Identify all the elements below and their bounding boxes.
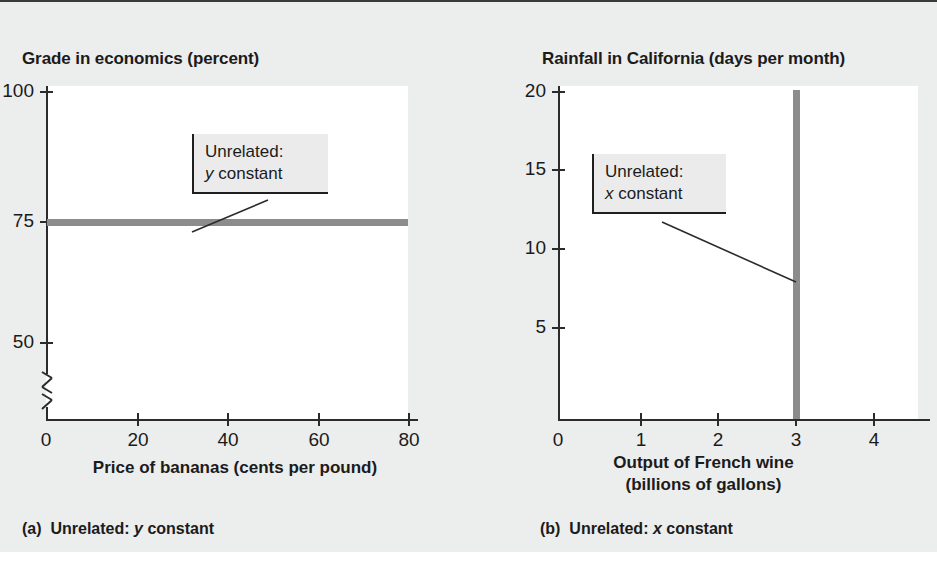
panel-b-x-tick-label-1: 1 xyxy=(617,429,665,451)
panel-a-caption-variable: y xyxy=(134,520,143,537)
panel-a-x-tick-label-80: 80 xyxy=(385,429,433,451)
panel-b-x-tick-label-0: 0 xyxy=(534,429,582,451)
panel-a-caption-prefix: (a) xyxy=(22,520,42,537)
panel-a-y-tick-label-100: 100 xyxy=(0,80,34,102)
panel-b-x-axis-title-line-2: (billions of gallons) xyxy=(470,474,937,496)
panel-b-y-tick-label-10: 10 xyxy=(500,237,546,259)
panel-b-x-tick-label-2: 2 xyxy=(694,429,742,451)
panel-a-x-tick-60 xyxy=(318,413,320,426)
panel-b-caption-variable: x xyxy=(653,520,662,537)
panel-b-y-tick-10 xyxy=(552,248,565,250)
panel-a-x-tick-20 xyxy=(137,413,139,426)
panel-a-x-axis xyxy=(46,419,418,421)
panel-a-y-axis-title: Grade in economics (percent) xyxy=(22,49,259,69)
panel-a-caption: (a) Unrelated: y constant xyxy=(22,520,214,538)
panel-b-caption: (b) Unrelated: x constant xyxy=(540,520,733,538)
panel-b-y-tick-20 xyxy=(552,91,565,93)
panel-b-y-tick-15 xyxy=(552,169,565,171)
panel-a-callout-leader xyxy=(190,198,270,234)
panel-b-y-tick-label-20: 20 xyxy=(500,80,546,102)
panel-b-x-tick-1 xyxy=(640,413,642,426)
panel-b-caption-prefix: (b) xyxy=(540,520,560,537)
panel-b-caption-text-2: constant xyxy=(666,520,733,537)
panel-b-x-tick-label-3: 3 xyxy=(772,429,820,451)
page-bottom-strip xyxy=(0,552,937,579)
panel-b-callout-word: constant xyxy=(618,184,682,203)
figure-container: Grade in economics (percent) 100 75 50 0… xyxy=(0,0,937,552)
panel-b-callout-variable: x xyxy=(605,184,614,203)
panel-a-x-tick-label-0: 0 xyxy=(22,429,70,451)
panel-a-callout-word: constant xyxy=(218,164,282,183)
panel-a-y-axis xyxy=(46,86,48,374)
panel-b-caption-text-1: Unrelated: xyxy=(569,520,648,537)
panel-b-y-axis xyxy=(558,86,560,420)
panel-a-x-tick-label-40: 40 xyxy=(204,429,252,451)
panel-a-callout: Unrelated: y constant xyxy=(192,134,328,194)
panel-b: Rainfall in California (days per month) … xyxy=(470,2,937,554)
panel-a-callout-line-2: y constant xyxy=(205,163,316,185)
panel-a-x-tick-label-60: 60 xyxy=(295,429,343,451)
panel-a-x-tick-80 xyxy=(408,413,410,426)
panel-b-callout-line-2: x constant xyxy=(605,183,714,205)
panel-a-y-tick-50 xyxy=(40,342,53,344)
panel-b-y-axis-title: Rainfall in California (days per month) xyxy=(542,49,845,69)
panel-b-callout: Unrelated: x constant xyxy=(592,154,726,214)
panel-b-x-tick-2 xyxy=(717,413,719,426)
panel-a-y-tick-label-50: 50 xyxy=(0,331,34,353)
panel-a-y-tick-label-75: 75 xyxy=(0,210,34,232)
panel-a-callout-line-1: Unrelated: xyxy=(205,141,316,163)
panel-a-x-tick-40 xyxy=(227,413,229,426)
panel-a-x-axis-title: Price of bananas (cents per pound) xyxy=(0,457,470,479)
panel-a-caption-text-1: Unrelated: xyxy=(50,520,129,537)
panel-a-y-tick-100 xyxy=(40,91,53,93)
panel-b-y-tick-label-5: 5 xyxy=(500,316,546,338)
panel-a-axis-break-icon xyxy=(39,370,57,412)
panel-b-x-tick-4 xyxy=(873,413,875,426)
panel-b-callout-leader xyxy=(660,220,800,284)
panel-a-caption-text-2: constant xyxy=(147,520,214,537)
panel-a-callout-variable: y xyxy=(205,164,214,183)
panel-b-x-axis-title-line-1: Output of French wine xyxy=(470,452,937,474)
panel-b-y-tick-label-15: 15 xyxy=(500,158,546,180)
panel-a-x-tick-label-20: 20 xyxy=(114,429,162,451)
panel-a: Grade in economics (percent) 100 75 50 0… xyxy=(0,2,470,554)
panel-b-x-axis-title: Output of French wine (billions of gallo… xyxy=(470,452,937,496)
panel-b-x-tick-label-4: 4 xyxy=(850,429,898,451)
panel-b-y-tick-5 xyxy=(552,327,565,329)
panel-b-callout-line-1: Unrelated: xyxy=(605,161,714,183)
